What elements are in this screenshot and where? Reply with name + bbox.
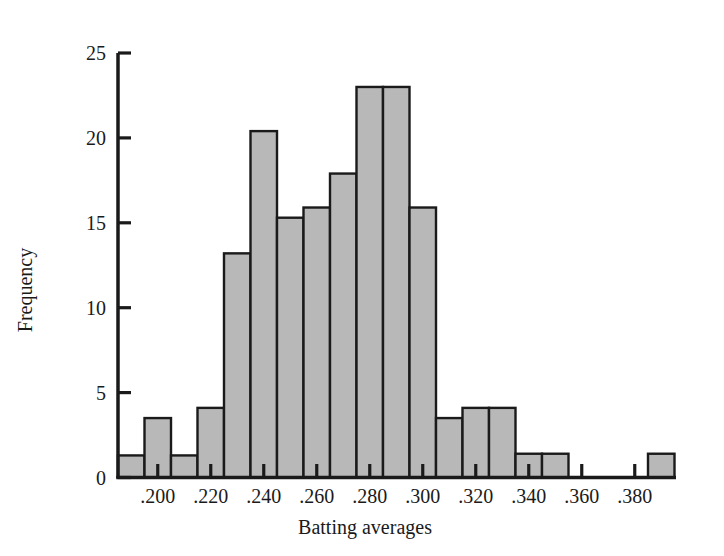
- y-tick-label: 10: [86, 297, 106, 319]
- histogram-bar: [436, 418, 463, 477]
- x-tick-label: .240: [246, 485, 281, 507]
- x-axis-title: Batting averages: [298, 516, 432, 539]
- histogram-figure: 0510152025 .200.220.240.260.280.300.320.…: [0, 0, 724, 556]
- histogram-bar: [330, 174, 357, 478]
- histogram-bar: [489, 408, 516, 478]
- histogram-bar: [171, 455, 198, 477]
- y-tick-label: 15: [86, 212, 106, 234]
- x-tick-label: .220: [193, 485, 228, 507]
- x-tick-label: .200: [140, 485, 175, 507]
- x-tick-label: .260: [299, 485, 334, 507]
- histogram-bar: [383, 87, 410, 478]
- histogram-bar: [304, 208, 331, 478]
- y-tick-label: 5: [96, 382, 106, 404]
- x-tick-label: .380: [617, 485, 652, 507]
- histogram-bar: [277, 218, 304, 478]
- histogram-bar: [118, 455, 145, 477]
- chart-canvas: 0510152025 .200.220.240.260.280.300.320.…: [0, 0, 724, 556]
- histogram-bar: [251, 131, 278, 477]
- histogram-bar: [648, 454, 675, 478]
- histogram-bar: [357, 87, 384, 478]
- x-tick-label: .340: [511, 485, 546, 507]
- x-tick-label: .320: [458, 485, 493, 507]
- y-axis-title: Frequency: [14, 248, 37, 332]
- histogram-bar: [542, 454, 569, 478]
- y-tick-label: 20: [86, 127, 106, 149]
- histogram-bar: [224, 253, 251, 477]
- x-tick-label: .280: [352, 485, 387, 507]
- y-tick-label: 0: [96, 467, 106, 489]
- x-tick-label: .300: [405, 485, 440, 507]
- histogram-bar: [410, 208, 437, 478]
- y-tick-label: 25: [86, 42, 106, 64]
- x-tick-label: .360: [564, 485, 599, 507]
